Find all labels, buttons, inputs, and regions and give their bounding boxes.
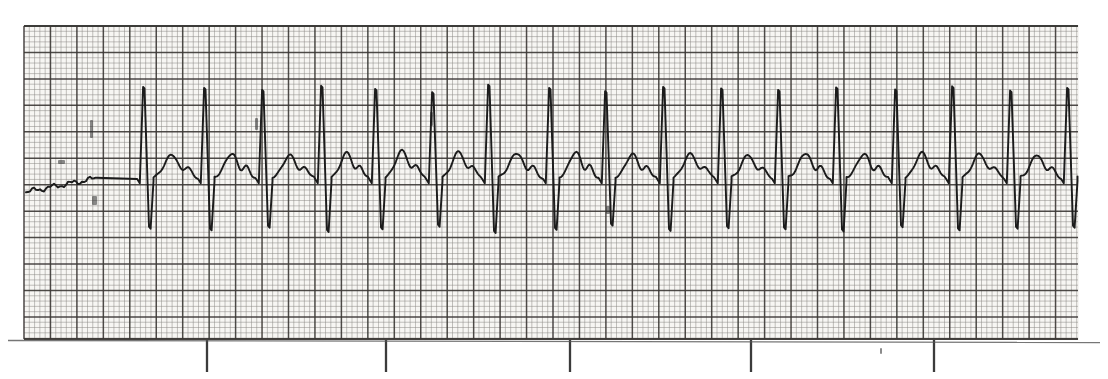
ecg-paper-background <box>23 25 1079 340</box>
scan-artifact-6 <box>606 206 610 214</box>
ecg-chart <box>0 0 1108 379</box>
scan-artifact-1 <box>58 160 65 164</box>
scan-artifact-3 <box>90 120 93 138</box>
scan-artifact-4 <box>255 118 258 130</box>
ecg-strip-container <box>0 0 1108 379</box>
scan-artifact-2 <box>92 196 97 205</box>
scan-artifact-7 <box>880 348 882 354</box>
